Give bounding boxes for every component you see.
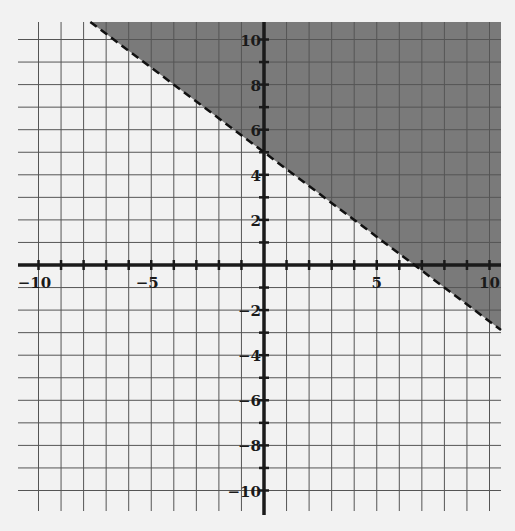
x-tick-label: −5 — [136, 274, 159, 292]
y-tick-label: −10 — [228, 483, 261, 501]
y-tick-label: 4 — [251, 167, 261, 185]
y-tick-label: 6 — [251, 122, 261, 140]
coordinate-plane: −10−5510108642−2−4−6−8−10 — [0, 0, 515, 531]
x-tick-label: 10 — [479, 274, 500, 292]
y-tick-label: −6 — [238, 392, 261, 410]
y-tick-label: −4 — [238, 347, 261, 365]
x-tick-label: 5 — [372, 274, 382, 292]
y-tick-label: −2 — [238, 302, 261, 320]
y-tick-label: 2 — [251, 212, 261, 230]
y-tick-label: 8 — [251, 77, 261, 95]
x-tick-label: −10 — [18, 274, 51, 292]
y-tick-label: −8 — [238, 437, 261, 455]
y-tick-label: 10 — [240, 32, 261, 50]
